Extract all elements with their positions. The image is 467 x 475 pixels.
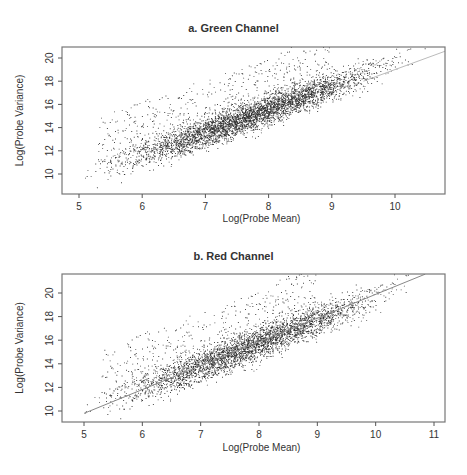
panel-a-plot: 5678910101214161820Log(Probe Mean)Log(Pr… [14,40,446,224]
y-tick-label: 14 [44,122,55,134]
x-tick-label: 7 [203,201,209,212]
x-tick-label: 7 [198,429,204,440]
x-axis-title: Log(Probe Mean) [223,213,301,224]
y-tick-label: 18 [44,311,55,323]
x-tick-label: 6 [139,201,145,212]
trend-line [363,51,445,81]
y-tick-label: 18 [44,75,55,87]
x-tick-label: 9 [329,201,335,212]
x-tick-label: 6 [140,429,146,440]
y-tick-label: 14 [44,358,55,370]
y-tick-label: 10 [44,405,55,417]
y-tick-label: 16 [44,334,55,346]
scatter-plots: 5678910101214161820Log(Probe Mean)Log(Pr… [0,0,467,475]
x-tick-label: 9 [315,429,321,440]
y-tick-label: 10 [44,168,55,180]
y-tick-label: 12 [44,145,55,157]
panel-b-plot: 567891011101214161820Log(Probe Mean)Log(… [14,270,445,453]
x-tick-label: 10 [370,429,382,440]
x-tick-label: 10 [389,201,401,212]
x-axis-title: Log(Probe Mean) [223,442,301,453]
y-tick-label: 20 [44,287,55,299]
data-points [85,270,422,440]
x-tick-label: 8 [266,201,272,212]
y-axis-title: Log(Probe Variance) [14,302,25,394]
data-points [85,40,426,202]
y-tick-label: 20 [44,52,55,64]
y-tick-label: 12 [44,381,55,393]
y-tick-label: 16 [44,98,55,110]
x-tick-label: 5 [76,201,82,212]
x-tick-label: 11 [429,429,440,440]
x-tick-label: 5 [81,429,87,440]
y-axis-title: Log(Probe Variance) [14,75,25,167]
trend-line [84,274,425,413]
x-tick-label: 8 [256,429,262,440]
plot-frame [62,274,445,422]
